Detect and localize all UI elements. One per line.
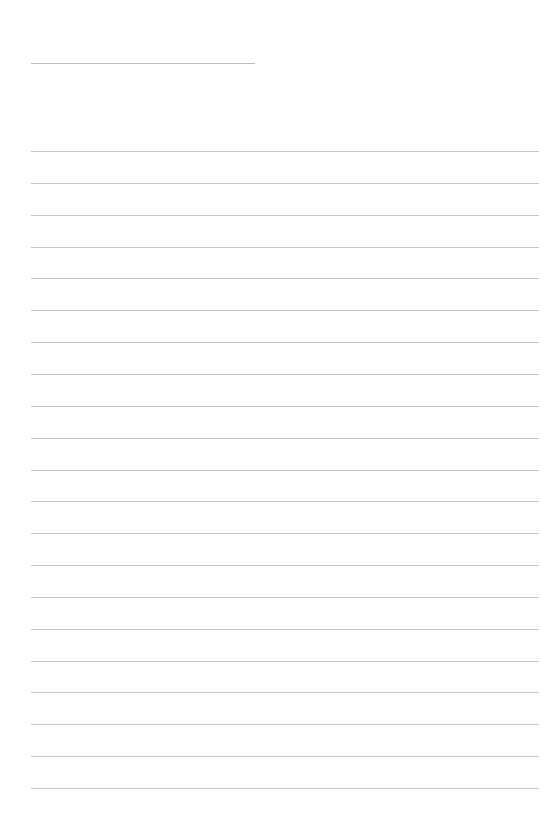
writing-line (31, 724, 539, 725)
writing-line (31, 501, 539, 502)
writing-line (31, 310, 539, 311)
writing-line (31, 629, 539, 630)
writing-line (31, 374, 539, 375)
writing-line (31, 661, 539, 662)
title-line (31, 63, 255, 64)
writing-line (31, 406, 539, 407)
writing-line (31, 565, 539, 566)
writing-line (31, 247, 539, 248)
writing-line (31, 278, 539, 279)
writing-line (31, 470, 539, 471)
writing-line (31, 438, 539, 439)
writing-line (31, 597, 539, 598)
writing-line (31, 756, 539, 757)
writing-line (31, 533, 539, 534)
writing-line (31, 342, 539, 343)
writing-line (31, 692, 539, 693)
writing-line (31, 788, 539, 789)
lined-paper (0, 0, 544, 834)
writing-line (31, 183, 539, 184)
writing-line (31, 215, 539, 216)
writing-line (31, 151, 539, 152)
